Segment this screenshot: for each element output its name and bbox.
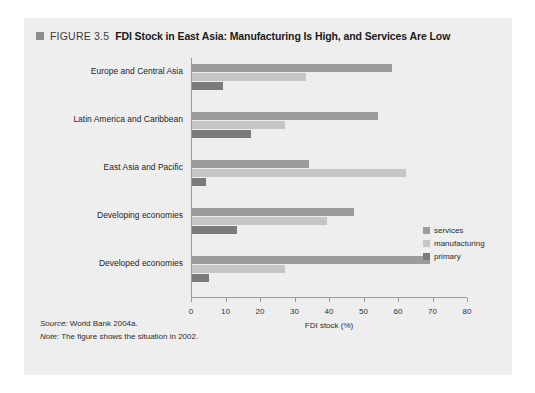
x-tick-label: 20 — [256, 307, 265, 316]
category-label: Developing economies — [97, 210, 183, 220]
source-value: World Bank 2004a. — [68, 319, 138, 328]
x-tick-label: 80 — [463, 307, 472, 316]
bar-primary — [192, 274, 209, 282]
source-label: Source: — [40, 319, 68, 328]
note-label: Note: — [40, 332, 59, 341]
category-label: Latin America and Caribbean — [73, 114, 183, 124]
figure-page: FIGURE 3.5 FDI Stock in East Asia: Manuf… — [0, 0, 535, 393]
x-tick — [364, 298, 365, 302]
x-tick — [467, 298, 468, 302]
figure-panel: FIGURE 3.5 FDI Stock in East Asia: Manuf… — [24, 18, 512, 375]
legend-label: primary — [434, 252, 461, 261]
category-label: Developed economies — [99, 258, 183, 268]
square-marker-icon — [36, 32, 44, 40]
bar-manufacturing — [192, 121, 285, 129]
bar-services — [192, 208, 354, 216]
x-tick — [329, 298, 330, 302]
x-axis-label: FDI stock (%) — [305, 321, 353, 330]
x-tick-label: 50 — [359, 307, 368, 316]
x-tick — [226, 298, 227, 302]
bar-services — [192, 112, 378, 120]
bar-manufacturing — [192, 169, 406, 177]
x-tick — [398, 298, 399, 302]
x-tick-label: 0 — [189, 307, 193, 316]
chart-legend: servicesmanufacturingprimary — [423, 225, 485, 264]
figure-title-row: FIGURE 3.5 FDI Stock in East Asia: Manuf… — [36, 30, 450, 42]
legend-swatch-icon — [423, 253, 430, 260]
x-tick-label: 40 — [325, 307, 334, 316]
category-label: East Asia and Pacific — [104, 162, 183, 172]
legend-item-manufacturing: manufacturing — [423, 238, 485, 249]
figure-number: FIGURE 3.5 — [50, 30, 109, 42]
note-value: The figure shows the situation in 2002. — [59, 332, 198, 341]
bar-services — [192, 160, 309, 168]
bar-manufacturing — [192, 73, 306, 81]
bar-primary — [192, 178, 206, 186]
category-label: Europe and Central Asia — [91, 66, 183, 76]
source-line: Source: World Bank 2004a. — [40, 318, 198, 331]
bar-primary — [192, 130, 251, 138]
bar-manufacturing — [192, 265, 285, 273]
bar-services — [192, 64, 392, 72]
x-tick — [295, 298, 296, 302]
bar-services — [192, 256, 430, 264]
note-line: Note: The figure shows the situation in … — [40, 331, 198, 344]
legend-item-primary: primary — [423, 251, 485, 262]
x-tick — [260, 298, 261, 302]
bar-manufacturing — [192, 217, 327, 225]
x-tick-label: 70 — [428, 307, 437, 316]
x-tick-label: 60 — [394, 307, 403, 316]
x-tick-label: 30 — [290, 307, 299, 316]
x-tick — [191, 298, 192, 302]
legend-swatch-icon — [423, 227, 430, 234]
x-tick — [433, 298, 434, 302]
legend-label: manufacturing — [434, 239, 485, 248]
legend-swatch-icon — [423, 240, 430, 247]
x-tick-label: 10 — [221, 307, 230, 316]
figure-title: FDI Stock in East Asia: Manufacturing Is… — [115, 30, 450, 42]
bar-primary — [192, 226, 237, 234]
legend-item-services: services — [423, 225, 485, 236]
bar-primary — [192, 82, 223, 90]
figure-footnotes: Source: World Bank 2004a. Note: The figu… — [40, 318, 198, 343]
legend-label: services — [434, 226, 463, 235]
